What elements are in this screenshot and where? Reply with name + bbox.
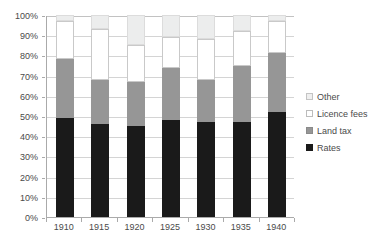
- y-axis-tick-label: 0%: [25, 214, 38, 223]
- y-axis-tick-label: 70%: [20, 73, 38, 82]
- bar-group[interactable]: [233, 16, 251, 217]
- bar-segment[interactable]: [233, 122, 251, 217]
- x-axis-tick-mark: [81, 218, 82, 222]
- bar-segment[interactable]: [127, 15, 145, 45]
- x-axis-tick-label: 1930: [188, 222, 223, 233]
- legend-item-label: Rates: [317, 143, 341, 153]
- bar-segment[interactable]: [91, 29, 109, 80]
- bar-segment[interactable]: [56, 15, 74, 21]
- x-axis-tick-label: 1925: [152, 222, 187, 233]
- y-axis-tick-mark: [42, 97, 45, 98]
- x-axis-tick-label: 1910: [46, 222, 81, 233]
- bar-group[interactable]: [162, 16, 180, 217]
- legend-item[interactable]: Other: [306, 88, 383, 105]
- legend-item[interactable]: Land tax: [306, 122, 383, 139]
- y-axis-tick-mark: [42, 218, 45, 219]
- y-axis-tick-label: 100%: [15, 12, 38, 21]
- bar-segment[interactable]: [127, 45, 145, 81]
- y-axis-tick-label: 30%: [20, 153, 38, 162]
- bar-segment[interactable]: [268, 21, 286, 53]
- legend-swatch-icon: [306, 93, 313, 100]
- x-axis-tick-mark: [117, 218, 118, 222]
- legend-item[interactable]: Rates: [306, 139, 383, 156]
- legend-item[interactable]: Licence fees: [306, 105, 383, 122]
- bar-segment[interactable]: [268, 112, 286, 217]
- y-axis-tick-label: 50%: [20, 113, 38, 122]
- y-axis-tick-label: 90%: [20, 32, 38, 41]
- bar-segment[interactable]: [233, 66, 251, 123]
- bar-stack: [162, 15, 180, 217]
- bar-group[interactable]: [91, 16, 109, 217]
- bar-segment[interactable]: [56, 21, 74, 59]
- x-axis-tick-label: 1915: [81, 222, 116, 233]
- stacked-bar-chart: 100%90%80%70%60%50%40%30%20%10%0% 191019…: [0, 0, 383, 247]
- bar-segment[interactable]: [91, 80, 109, 124]
- bar-segment[interactable]: [197, 80, 215, 122]
- bar-segment[interactable]: [162, 37, 180, 67]
- bar-group[interactable]: [268, 16, 286, 217]
- bar-segment[interactable]: [268, 53, 286, 112]
- bar-stack: [268, 15, 286, 217]
- bar-group[interactable]: [197, 16, 215, 217]
- y-axis-tick-mark: [42, 117, 45, 118]
- bar-segment[interactable]: [197, 15, 215, 39]
- y-axis: 100%90%80%70%60%50%40%30%20%10%0%: [0, 16, 42, 218]
- bar-stack: [127, 15, 145, 217]
- bar-stack: [197, 15, 215, 217]
- x-axis-tick-mark: [152, 218, 153, 222]
- legend-swatch-icon: [306, 110, 313, 117]
- x-axis-tick-mark: [223, 218, 224, 222]
- bar-stack: [233, 15, 251, 217]
- legend-swatch-icon: [306, 144, 313, 151]
- legend-item-label: Land tax: [317, 126, 352, 136]
- bar-segment[interactable]: [233, 31, 251, 65]
- y-axis-tick-label: 40%: [20, 133, 38, 142]
- x-axis-tick-mark: [294, 218, 295, 222]
- x-axis-tick-mark: [259, 218, 260, 222]
- bar-segment[interactable]: [162, 15, 180, 37]
- chart-legend: OtherLicence feesLand taxRates: [306, 88, 383, 156]
- y-axis-tick-mark: [42, 198, 45, 199]
- y-axis-tick-label: 60%: [20, 93, 38, 102]
- x-axis-tick-label: 1920: [117, 222, 152, 233]
- bar-stack: [56, 15, 74, 217]
- y-axis-tick-mark: [42, 157, 45, 158]
- bar-group[interactable]: [127, 16, 145, 217]
- y-axis-tick-mark: [42, 16, 45, 17]
- bar-segment[interactable]: [91, 15, 109, 29]
- bar-segment[interactable]: [162, 120, 180, 217]
- y-axis-tick-mark: [42, 137, 45, 138]
- bar-segment[interactable]: [197, 122, 215, 217]
- y-axis-tick-label: 80%: [20, 52, 38, 61]
- bar-segment[interactable]: [162, 68, 180, 121]
- bar-segment[interactable]: [268, 15, 286, 21]
- plot-area: [46, 16, 294, 218]
- bar-group[interactable]: [56, 16, 74, 217]
- bar-segment[interactable]: [197, 39, 215, 79]
- y-axis-tick-mark: [42, 36, 45, 37]
- y-axis-tick-label: 20%: [20, 174, 38, 183]
- bar-stack: [91, 15, 109, 217]
- legend-item-label: Licence fees: [317, 109, 368, 119]
- y-axis-tick-mark: [42, 56, 45, 57]
- x-axis-tick-mark: [46, 218, 47, 222]
- y-axis-tick-mark: [42, 178, 45, 179]
- legend-item-label: Other: [317, 92, 340, 102]
- y-axis-tick-label: 10%: [20, 194, 38, 203]
- x-axis: 1910191519201925193019351940: [46, 222, 294, 238]
- bar-segment[interactable]: [233, 15, 251, 31]
- x-axis-tick-label: 1940: [259, 222, 294, 233]
- bar-segment[interactable]: [91, 124, 109, 217]
- bar-segment[interactable]: [56, 118, 74, 217]
- x-axis-tick-mark: [188, 218, 189, 222]
- bar-segment[interactable]: [127, 126, 145, 217]
- bar-segment[interactable]: [127, 82, 145, 126]
- y-axis-tick-mark: [42, 77, 45, 78]
- legend-swatch-icon: [306, 127, 313, 134]
- bars-layer: [47, 16, 294, 217]
- x-axis-tick-label: 1935: [223, 222, 258, 233]
- bar-segment[interactable]: [56, 59, 74, 118]
